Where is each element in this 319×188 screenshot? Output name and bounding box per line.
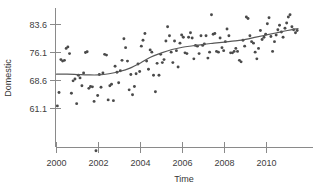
data-point xyxy=(191,36,194,39)
data-point xyxy=(122,37,125,40)
data-point xyxy=(142,39,145,42)
data-point xyxy=(86,50,89,53)
data-point xyxy=(243,45,246,48)
data-point xyxy=(226,28,229,31)
y-tick-label: 83.6 xyxy=(29,20,47,30)
y-tick-label: 68.6 xyxy=(29,76,47,86)
data-point xyxy=(95,149,98,152)
data-point xyxy=(114,65,117,68)
data-point xyxy=(135,72,138,75)
data-point xyxy=(117,81,120,84)
data-point xyxy=(273,40,276,43)
data-point xyxy=(107,98,110,101)
data-point xyxy=(257,47,260,50)
data-point xyxy=(164,39,167,42)
data-point xyxy=(128,88,131,91)
data-point xyxy=(269,35,272,38)
data-point xyxy=(275,34,278,37)
data-point xyxy=(110,83,113,86)
data-point xyxy=(206,57,209,60)
data-point xyxy=(79,76,82,79)
data-point xyxy=(68,52,71,55)
data-point xyxy=(63,59,66,62)
data-point xyxy=(240,60,243,63)
data-point xyxy=(112,99,115,102)
data-point xyxy=(208,51,211,54)
data-point xyxy=(266,22,269,25)
data-point xyxy=(121,59,124,62)
scatter-plot-svg: 83.6 76.1 68.6 61.1 2000 2002 2004 2006 … xyxy=(0,0,319,188)
data-point xyxy=(210,13,213,16)
y-axis-tick-labels: 83.6 76.1 68.6 61.1 xyxy=(29,20,47,114)
data-point xyxy=(182,36,185,39)
data-point xyxy=(143,32,146,35)
y-tick-label: 61.1 xyxy=(29,104,47,114)
data-point xyxy=(236,50,239,53)
data-point xyxy=(154,90,157,93)
data-point xyxy=(200,34,203,37)
x-tick-label: 2008 xyxy=(214,158,234,168)
y-axis-title: Domestic xyxy=(3,59,13,97)
data-point xyxy=(131,93,134,96)
data-point xyxy=(158,74,161,77)
data-point xyxy=(185,52,188,55)
data-point xyxy=(248,34,251,37)
data-point xyxy=(177,66,180,69)
data-point xyxy=(74,78,77,81)
data-point xyxy=(168,34,171,37)
data-point xyxy=(261,38,264,41)
data-point xyxy=(147,68,150,71)
data-point xyxy=(152,74,155,77)
data-point xyxy=(126,60,129,63)
data-point xyxy=(58,91,61,94)
data-point xyxy=(189,31,192,34)
data-point xyxy=(285,22,288,25)
data-point xyxy=(219,36,222,39)
data-point xyxy=(198,52,201,55)
data-point xyxy=(233,50,236,53)
data-point xyxy=(91,85,94,88)
data-point xyxy=(161,61,164,64)
data-point xyxy=(282,36,285,39)
data-point xyxy=(187,36,190,39)
x-tick-label: 2010 xyxy=(256,158,276,168)
data-point xyxy=(222,49,225,52)
data-point xyxy=(129,73,132,76)
data-point xyxy=(124,46,127,49)
data-point xyxy=(163,58,166,61)
x-axis-title: Time xyxy=(174,174,194,184)
data-point xyxy=(96,94,99,97)
data-point xyxy=(255,57,258,60)
data-point xyxy=(140,45,143,48)
chart-figure: 83.6 76.1 68.6 61.1 2000 2002 2004 2006 … xyxy=(0,0,319,188)
data-point xyxy=(268,16,271,19)
data-point xyxy=(271,50,274,53)
data-point xyxy=(75,102,78,105)
data-point xyxy=(66,45,69,48)
data-point xyxy=(179,42,182,45)
data-point xyxy=(82,72,85,75)
data-point xyxy=(227,34,230,37)
scatter-points-layer xyxy=(56,13,299,152)
data-point xyxy=(93,100,96,103)
data-point xyxy=(259,29,262,32)
data-point xyxy=(170,51,173,54)
y-tick-label: 76.1 xyxy=(29,48,47,58)
x-tick-label: 2002 xyxy=(88,158,108,168)
data-point xyxy=(156,62,159,65)
x-tick-label: 2006 xyxy=(172,158,192,168)
data-point xyxy=(80,84,83,87)
x-tick-label: 2004 xyxy=(130,158,150,168)
data-point xyxy=(289,13,292,16)
data-point xyxy=(150,51,153,54)
data-point xyxy=(175,49,178,52)
data-point xyxy=(171,61,174,64)
data-point xyxy=(234,47,237,50)
data-point xyxy=(284,27,287,30)
data-point xyxy=(213,32,216,35)
data-point xyxy=(138,70,141,73)
data-point xyxy=(166,25,169,28)
data-point xyxy=(105,54,108,57)
data-point xyxy=(205,34,208,37)
data-point xyxy=(133,85,136,88)
